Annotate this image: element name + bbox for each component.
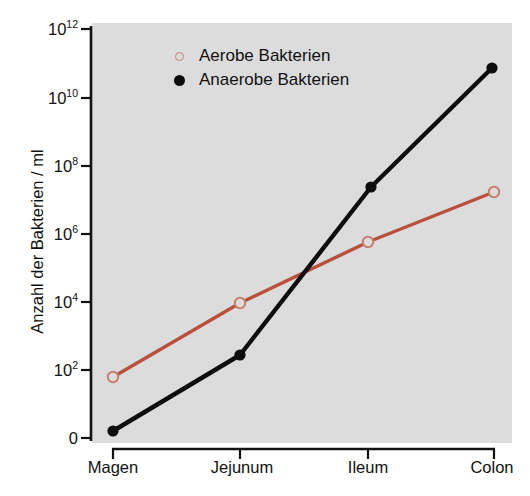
data-point-aerobe-ileum xyxy=(363,237,373,247)
series-line-anaerobe xyxy=(113,68,492,431)
data-point-anaerobe-jejunum xyxy=(234,349,245,360)
filled-circle-icon xyxy=(168,75,190,86)
chart-legend: Aerobe Bakterien Anaerobe Bakterien xyxy=(168,44,349,92)
data-point-aerobe-jejunum xyxy=(235,298,245,308)
y-tick-label-1e10: 1010 xyxy=(20,90,78,107)
legend-label-anaerobe: Anaerobe Bakterien xyxy=(199,70,349,90)
data-point-aerobe-magen xyxy=(108,372,118,382)
legend-item-anaerobe: Anaerobe Bakterien xyxy=(168,68,349,92)
y-tick-label-1e12: 1012 xyxy=(20,21,78,38)
data-point-anaerobe-ileum xyxy=(365,181,376,192)
x-tick-label-jejunum: Jejunum xyxy=(211,458,273,477)
x-tick-label-magen: Magen xyxy=(88,458,138,477)
legend-label-aerobe: Aerobe Bakterien xyxy=(199,46,330,66)
data-point-anaerobe-magen xyxy=(107,425,118,436)
data-point-aerobe-colon xyxy=(489,187,499,197)
chart-figure: 1012 1010 108 106 104 102 0 Magen Jejunu… xyxy=(0,0,530,496)
y-tick-label-0: 0 xyxy=(20,430,78,447)
legend-item-aerobe: Aerobe Bakterien xyxy=(168,44,349,68)
x-tick-label-colon: Colon xyxy=(470,458,513,477)
open-circle-icon xyxy=(168,52,190,61)
series-line-aerobe xyxy=(113,192,494,377)
data-point-anaerobe-colon xyxy=(486,62,497,73)
y-tick-label-1e2: 102 xyxy=(20,362,78,379)
y-axis-title: Anzahl der Bakterien / ml xyxy=(28,127,47,357)
x-tick-label-ileum: Ileum xyxy=(348,458,388,477)
